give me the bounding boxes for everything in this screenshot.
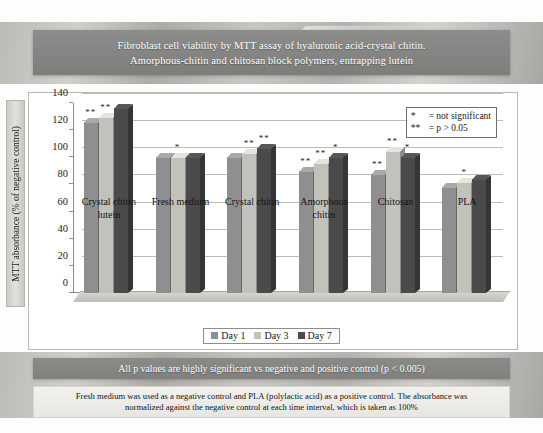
- bar-face: [242, 153, 256, 293]
- y-tick-label: 20: [58, 249, 69, 260]
- significance-mark: **: [85, 107, 96, 117]
- bar[interactable]: **: [257, 148, 271, 293]
- x-category-label-line: lutein: [73, 209, 145, 222]
- bar[interactable]: [227, 157, 241, 293]
- bar[interactable]: **: [314, 163, 328, 293]
- x-category-label-line: chitin: [288, 209, 360, 222]
- bar-body: [386, 151, 400, 294]
- series-legend: Day 1Day 3Day 7: [0, 328, 543, 344]
- y-axis-title-label: MTT absorbance (% of negative control): [11, 126, 21, 282]
- series-legend-label: Day 1: [221, 330, 245, 341]
- bar[interactable]: **: [242, 153, 256, 293]
- gridline: [82, 93, 503, 94]
- bar-top: [386, 147, 404, 152]
- figure-title-line-1: Fibroblast cell viability by MTT assay o…: [117, 38, 425, 53]
- x-category-label-line: Crystal chitin: [216, 196, 288, 209]
- y-tick-label: 80: [58, 168, 69, 179]
- bar-body: [314, 163, 328, 293]
- bar-side: [200, 153, 205, 293]
- significance-legend-row: *= not significant: [411, 110, 491, 122]
- series-legend-swatch: [254, 332, 261, 339]
- footnote-line-2: normalized against the negative control …: [125, 402, 418, 414]
- bar-face: [371, 174, 385, 293]
- x-category-label: Fresh medium: [145, 196, 217, 209]
- gridline: [82, 256, 503, 257]
- bar-face: [171, 157, 185, 293]
- y-tick-mark: [69, 156, 73, 157]
- bar-body: [242, 153, 256, 293]
- bar-face: [329, 157, 343, 293]
- bar-side: [271, 144, 276, 293]
- series-legend-item[interactable]: Day 3: [254, 330, 288, 341]
- bar-body: [186, 157, 200, 293]
- significance-legend-text: = not significant: [429, 110, 491, 122]
- series-legend-box: Day 1Day 3Day 7: [203, 328, 340, 344]
- bar-face: [299, 171, 313, 293]
- significance-legend-symbol: *: [411, 110, 423, 122]
- bar[interactable]: *: [171, 157, 185, 293]
- y-tick-mark: [69, 265, 73, 266]
- x-category-label-line: PLA: [431, 196, 503, 209]
- significance-legend-text: = p > 0.05: [429, 122, 468, 134]
- bar[interactable]: *: [329, 157, 343, 293]
- bar[interactable]: *: [401, 157, 415, 293]
- y-tick-mark: [69, 292, 73, 293]
- figure-page: Fibroblast cell viability by MTT assay o…: [0, 0, 543, 433]
- significance-mark: **: [100, 102, 111, 112]
- gridline: [82, 174, 503, 175]
- y-tick-mark: [69, 129, 73, 130]
- bar-body: [227, 157, 241, 293]
- y-tick-label: 100: [52, 141, 68, 152]
- significance-mark: **: [300, 156, 311, 166]
- x-category-label: Crystal chitin: [216, 196, 288, 209]
- significance-mark: *: [405, 142, 411, 152]
- footnote-line-1: Fresh medium was used as a negative cont…: [76, 391, 467, 403]
- series-legend-swatch: [211, 332, 218, 339]
- bar-face: [227, 157, 241, 293]
- x-category-label-line: Chitosan: [360, 196, 432, 209]
- bar-face: [156, 157, 170, 293]
- significance-legend-row: **= p > 0.05: [411, 122, 491, 134]
- y-axis-title: MTT absorbance (% of negative control): [6, 100, 25, 307]
- series-legend-swatch: [298, 332, 305, 339]
- bar-body: [401, 157, 415, 293]
- bar[interactable]: **: [386, 151, 400, 294]
- significance-mark: **: [387, 136, 398, 146]
- significance-mark: *: [461, 167, 467, 177]
- figure-title-line-2: Amorphous-chitin and chitosan block poly…: [130, 53, 413, 68]
- significance-legend: *= not significant**= p > 0.05: [406, 107, 497, 138]
- y-tick-mark: [69, 183, 73, 184]
- y-tick-mark: [69, 238, 73, 239]
- bar[interactable]: [186, 157, 200, 293]
- bar[interactable]: **: [371, 174, 385, 293]
- bar[interactable]: **: [299, 171, 313, 293]
- bar-face: [186, 157, 200, 293]
- bar-body: [171, 157, 185, 293]
- y-tick-label: 60: [58, 195, 69, 206]
- series-legend-item[interactable]: Day 1: [211, 330, 245, 341]
- gridline: [82, 147, 503, 148]
- x-category-label: Crystal chitinlutein: [73, 196, 145, 221]
- bar-face: [314, 163, 328, 293]
- bar-face: [257, 148, 271, 293]
- bar[interactable]: [156, 157, 170, 293]
- significance-mark: **: [244, 138, 255, 148]
- x-category-label-line: Fresh medium: [145, 196, 217, 209]
- significance-mark: **: [315, 148, 326, 158]
- gridline: [82, 229, 503, 230]
- x-category-label: PLA: [431, 196, 503, 209]
- bar-body: [257, 148, 271, 293]
- bar-body: [299, 171, 313, 293]
- y-tick-label: 0: [63, 277, 68, 288]
- bar-body: [329, 157, 343, 293]
- bar-side: [343, 153, 348, 293]
- x-category-label-line: Crystal chitin: [73, 196, 145, 209]
- series-legend-item[interactable]: Day 7: [298, 330, 332, 341]
- y-tick-label: 140: [52, 87, 68, 98]
- bar-body: [156, 157, 170, 293]
- bar-face: [401, 157, 415, 293]
- x-category-label: Amorphouschitin: [288, 196, 360, 221]
- footer-banner: All p values are highly significant vs n…: [33, 358, 510, 379]
- y-tick-label: 40: [58, 222, 69, 233]
- footnote-box: Fresh medium was used as a negative cont…: [33, 386, 510, 418]
